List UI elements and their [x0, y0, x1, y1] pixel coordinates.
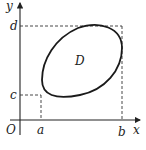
- y-axis-label: y: [5, 0, 13, 13]
- bound-label-c: c: [10, 88, 17, 102]
- bound-label-a: a: [37, 123, 44, 137]
- origin-label: O: [6, 123, 16, 137]
- bound-label-d: d: [10, 19, 18, 33]
- x-axis-label: x: [133, 123, 140, 137]
- bound-label-b: b: [118, 125, 126, 139]
- diagram: y x O D d c a b: [0, 0, 146, 150]
- region-label: D: [74, 54, 85, 68]
